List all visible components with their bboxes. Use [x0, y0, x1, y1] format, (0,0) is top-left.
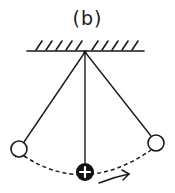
bob-left-icon: [11, 141, 27, 157]
bob-right-icon: [148, 135, 164, 151]
pendulum-diagram: [0, 0, 175, 193]
string-left: [24, 52, 85, 142]
string-right: [85, 52, 151, 136]
pendulum-strings: [24, 52, 151, 163]
ceiling-support: [27, 41, 144, 51]
motion-arrow-icon: [99, 170, 129, 183]
